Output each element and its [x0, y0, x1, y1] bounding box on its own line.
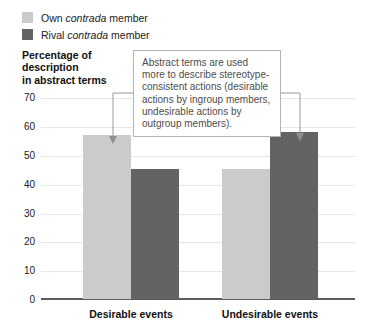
annotation-line-1: Abstract terms are used [142, 57, 273, 69]
y-axis-title: Percentage of description in abstract te… [22, 49, 132, 86]
y-axis-title-line-1: Percentage of [22, 49, 132, 61]
legend-label-own-contrada: Own contrada member [41, 12, 148, 24]
y-axis-tick-label: 40 [24, 180, 35, 190]
y-axis-tick-label: 10 [24, 266, 35, 276]
annotation-line-3: consistent actions (desirable [142, 81, 273, 93]
y-axis-title-line-2: description [22, 61, 132, 73]
bar [270, 132, 318, 299]
legend-item-rival-contrada: Rival contrada member [22, 27, 150, 42]
x-axis-category-label: Undesirable events [222, 308, 318, 320]
chart-legend: Own contrada member Rival contrada membe… [22, 10, 150, 44]
y-axis-tick-label: 0 [29, 295, 35, 305]
annotation-line-5: undesirable actions by [142, 106, 273, 118]
y-axis-tick-label: 70 [24, 93, 35, 103]
y-axis-tick-label: 30 [24, 209, 35, 219]
legend-item-own-contrada: Own contrada member [22, 10, 150, 25]
annotation-callout: Abstract terms are used more to describe… [133, 50, 281, 137]
annotation-line-2: more to describe stereotype- [142, 69, 273, 81]
bar-chart-figure: Own contrada member Rival contrada membe… [0, 0, 388, 330]
legend-swatch-own-contrada [22, 12, 33, 23]
bar [222, 169, 270, 299]
legend-swatch-rival-contrada [22, 29, 33, 40]
y-axis-tick-label: 60 [24, 122, 35, 132]
y-axis-tick-label: 20 [24, 237, 35, 247]
x-axis-category-label: Desirable events [89, 308, 172, 320]
annotation-line-4: actions by ingroup members, [142, 94, 273, 106]
legend-label-rival-contrada: Rival contrada member [41, 29, 150, 41]
bar [83, 135, 131, 299]
bar [131, 169, 179, 299]
annotation-line-6: outgroup members). [142, 118, 273, 130]
y-axis-tick-label: 50 [24, 151, 35, 161]
